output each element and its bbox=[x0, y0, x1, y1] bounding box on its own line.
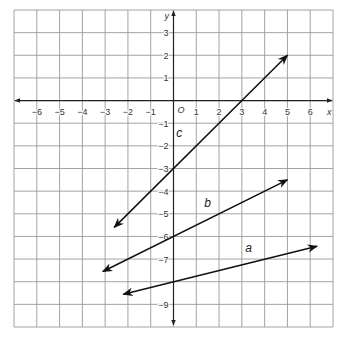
y-tick-label: −7 bbox=[158, 255, 168, 265]
origin-label: O bbox=[178, 105, 185, 115]
x-tick-label: −3 bbox=[100, 107, 110, 117]
y-tick-label: −5 bbox=[158, 209, 168, 219]
x-tick-label: 3 bbox=[239, 107, 244, 117]
line-label-c: c bbox=[176, 126, 182, 140]
x-axis-label: x bbox=[326, 107, 332, 117]
y-tick-label: −1 bbox=[158, 119, 168, 129]
line-labels: cba bbox=[176, 126, 252, 255]
x-tick-label: 2 bbox=[217, 107, 222, 117]
y-tick-label: 2 bbox=[163, 51, 168, 61]
line-label-a: a bbox=[245, 241, 252, 255]
coordinate-plane: −6−5−4−3−2−1123456321−1−2−3−4−5−6−7−9Oxy… bbox=[0, 0, 343, 338]
x-tick-label: −6 bbox=[32, 107, 42, 117]
x-tick-label: 6 bbox=[308, 107, 313, 117]
line-a bbox=[123, 246, 317, 294]
line-b bbox=[103, 180, 288, 272]
y-tick-label: −9 bbox=[158, 300, 168, 310]
line-c bbox=[114, 55, 287, 227]
x-tick-label: −1 bbox=[146, 107, 156, 117]
y-tick-label: 1 bbox=[163, 73, 168, 83]
x-tick-label: −2 bbox=[123, 107, 133, 117]
y-tick-label: −4 bbox=[158, 187, 168, 197]
x-tick-label: 1 bbox=[194, 107, 199, 117]
x-tick-label: −5 bbox=[54, 107, 64, 117]
y-tick-label: −3 bbox=[158, 164, 168, 174]
x-tick-label: 4 bbox=[262, 107, 267, 117]
plotted-lines bbox=[103, 55, 317, 294]
x-tick-label: −4 bbox=[77, 107, 87, 117]
line-label-b: b bbox=[204, 196, 211, 210]
y-tick-label: 3 bbox=[163, 28, 168, 38]
y-axis-label: y bbox=[164, 11, 170, 21]
x-tick-label: 5 bbox=[285, 107, 290, 117]
y-tick-label: −2 bbox=[158, 141, 168, 151]
